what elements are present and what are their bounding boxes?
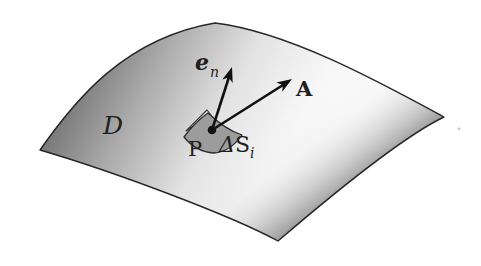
normal-vector-label: en <box>195 51 218 73</box>
point-label: P <box>188 139 202 160</box>
normal-vector-subscript: n <box>210 64 219 80</box>
patch-label-delta: Δ <box>219 132 235 157</box>
region-label: D <box>103 113 123 138</box>
patch-label: ΔSi <box>219 134 254 156</box>
patch-label-subscript: i <box>250 145 254 161</box>
figure-canvas: D en A P ΔSi <box>0 0 481 266</box>
field-vector-label: A <box>296 78 312 99</box>
paper-speck <box>458 128 461 131</box>
normal-vector-symbol: e <box>195 49 209 75</box>
patch-label-symbol: S <box>235 132 250 157</box>
